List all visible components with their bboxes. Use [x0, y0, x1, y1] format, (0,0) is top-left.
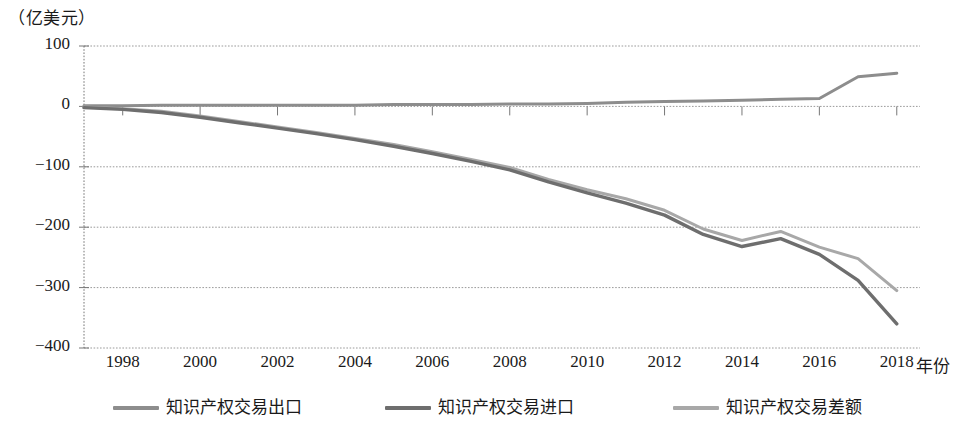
x-tick-label: 2014: [712, 352, 772, 372]
series-line: [84, 73, 897, 106]
x-tick-label: 2012: [635, 352, 695, 372]
intellectual-property-trade-line-chart: （亿美元） 1000−100−200−300−400 1998200020022…: [0, 0, 964, 422]
x-tick-label: 2006: [402, 352, 462, 372]
gridlines-group: [84, 46, 920, 348]
y-tick-label: −100: [8, 155, 70, 175]
legend-label: 知识产权交易出口: [166, 398, 302, 418]
x-tick-label: 2008: [480, 352, 540, 372]
y-tick-label: −300: [8, 276, 70, 296]
series-line: [84, 107, 897, 291]
x-tick-label: 2010: [557, 352, 617, 372]
chart-legend: 知识产权交易出口知识产权交易进口知识产权交易差额: [0, 398, 964, 422]
legend-color-swatch-icon: [673, 406, 719, 410]
y-tick-label: 0: [8, 94, 70, 114]
legend-item[interactable]: 知识产权交易差额: [673, 398, 862, 418]
series-lines-group: [84, 73, 897, 324]
legend-color-swatch-icon: [113, 406, 159, 410]
legend-item[interactable]: 知识产权交易进口: [385, 398, 574, 418]
y-tick-label: 100: [8, 34, 70, 54]
x-axis-title: 年份: [916, 352, 950, 377]
legend-item[interactable]: 知识产权交易出口: [113, 398, 302, 418]
x-tick-marks-group: [123, 106, 897, 115]
x-tick-label: 2016: [789, 352, 849, 372]
legend-label: 知识产权交易进口: [438, 398, 574, 418]
x-tick-label: 2002: [248, 352, 308, 372]
x-tick-label: 2000: [170, 352, 230, 372]
series-line: [84, 108, 897, 324]
y-tick-label: −400: [8, 336, 70, 356]
y-tick-label: −200: [8, 215, 70, 235]
legend-label: 知识产权交易差额: [726, 398, 862, 418]
legend-color-swatch-icon: [385, 406, 431, 410]
x-tick-label: 1998: [93, 352, 153, 372]
x-tick-label: 2004: [325, 352, 385, 372]
